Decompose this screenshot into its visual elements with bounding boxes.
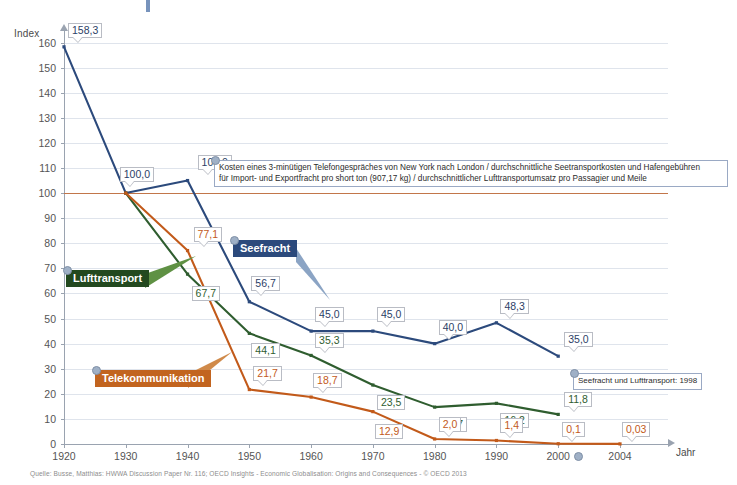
series-tag-seefracht: Seefracht [233,240,297,257]
footnote-marker-icon [63,266,72,275]
data-label: 18,7 [313,373,341,388]
data-label: 23,5 [377,395,405,410]
footnote-line-1: Kosten eines 3-minütigen Telefongespräch… [219,163,723,174]
data-label: 35,0 [564,332,592,347]
footnote-marker-icon [230,236,239,245]
label-tail-fill [505,432,514,437]
label-tail-fill [444,334,453,339]
label-tail-fill [567,436,576,441]
data-point-marker [248,332,251,335]
data-point-marker [186,273,189,276]
data-point-marker [248,300,251,303]
footnote-marker-icon [92,366,101,375]
data-label: 45,0 [315,307,343,322]
data-label: 40,0 [439,320,467,335]
data-label: 77,1 [194,227,222,242]
data-point-marker [310,354,313,357]
data-label: 67,7 [192,286,220,301]
label-tail-fill [258,380,267,385]
data-label: 56,7 [251,276,279,291]
data-point-marker [495,402,498,405]
callout-pointer-icon [296,248,330,300]
series-tag-telekommunikation: Telekommunikation [95,370,211,387]
data-label: 44,1 [251,343,279,358]
label-tail-fill [320,321,329,326]
series-line-seefracht [64,47,558,356]
data-point-marker [495,321,498,324]
data-point-marker [433,342,436,345]
data-point-marker [124,191,127,194]
data-label: 45,0 [377,307,405,322]
callout-pointer-icon [145,256,196,288]
data-label: 158,3 [68,23,102,38]
footnote-line-2: für Import- und Exportfracht pro short t… [219,174,723,185]
footnote-marker-icon [570,369,579,378]
footnote-box-methodology: Kosten eines 3-minütigen Telefongespräch… [214,160,728,187]
data-label: 2,0 [439,417,462,432]
data-point-marker [248,388,251,391]
label-tail-fill [569,406,578,411]
data-point-marker [433,406,436,409]
data-point-marker [557,355,560,358]
label-tail-fill [444,431,453,436]
data-label: 21,7 [253,366,281,381]
label-tail-fill [256,290,265,295]
footnote-box-year-note: Seefracht und Lufttransport: 1998 [573,373,702,390]
chart-figure: Index Jahr 01020304050607080901001101201… [0,0,737,485]
footnote-marker-icon [211,156,220,165]
data-point-marker [310,329,313,332]
data-point-marker [557,442,560,445]
series-lines-layer [0,0,737,485]
data-label: 0,1 [562,422,585,437]
series-tag-label-seefracht: Seefracht [240,242,290,254]
label-tail-fill [203,169,212,174]
series-tag-lufttransport: Lufttransport [66,270,149,287]
label-tail-fill [318,387,327,392]
data-point-marker [62,45,65,48]
label-tail-fill [569,346,578,351]
data-label: 11,8 [564,392,592,407]
data-point-marker [371,329,374,332]
label-tail-fill [125,181,134,186]
data-point-marker [186,249,189,252]
data-point-marker [371,410,374,413]
data-point-marker [371,383,374,386]
data-point-marker [186,179,189,182]
data-point-marker [618,442,621,445]
series-tag-label-lufttransport: Lufttransport [73,272,142,284]
label-tail-fill [627,436,636,441]
label-tail-fill [199,241,208,246]
data-point-marker [310,395,313,398]
data-label: 12,9 [375,424,403,439]
data-label: 48,3 [500,299,528,314]
data-point-marker [557,413,560,416]
label-tail-fill [73,37,82,42]
label-tail-fill [382,321,391,326]
data-point-marker [433,437,436,440]
data-point-marker [495,439,498,442]
data-label: 35,3 [315,333,343,348]
series-tag-label-telekommunikation: Telekommunikation [102,372,204,384]
label-tail-fill [320,347,329,352]
data-label: 1,4 [500,418,523,433]
data-label: 0,03 [622,422,650,437]
source-citation: Quelle: Busse, Matthias: HWWA Discussion… [30,470,467,477]
data-label: 100,0 [120,167,154,182]
label-tail-fill [505,313,514,318]
